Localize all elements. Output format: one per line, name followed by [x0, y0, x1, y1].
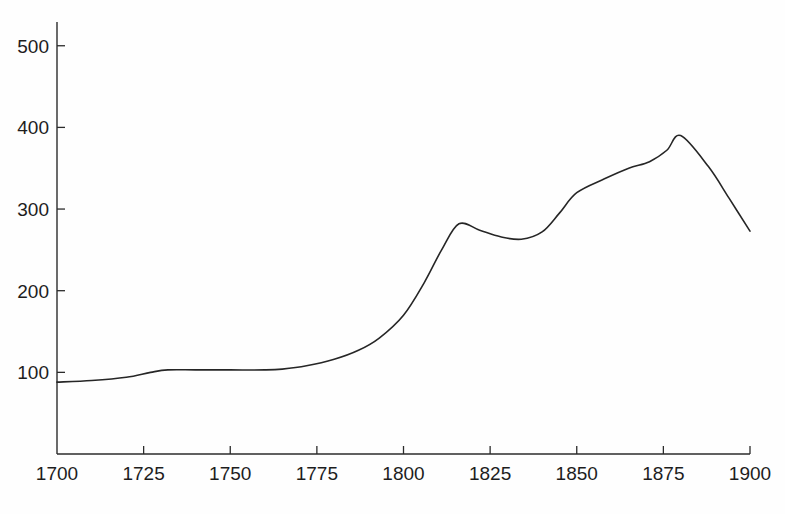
x-tick-label: 1875: [642, 463, 684, 484]
axis-ticks: [57, 46, 750, 454]
line-chart: 1002003004005001700172517501775180018251…: [0, 0, 785, 514]
x-tick-label: 1775: [296, 463, 338, 484]
x-tick-label: 1825: [469, 463, 511, 484]
y-tick-label: 400: [17, 117, 49, 138]
x-tick-label: 1700: [36, 463, 78, 484]
y-tick-label: 200: [17, 281, 49, 302]
y-tick-label: 300: [17, 199, 49, 220]
x-tick-label: 1750: [209, 463, 251, 484]
y-tick-label: 500: [17, 36, 49, 57]
series-line: [57, 135, 750, 382]
axis-tick-labels: 1002003004005001700172517501775180018251…: [17, 36, 771, 484]
axes: [57, 22, 750, 454]
x-tick-label: 1800: [382, 463, 424, 484]
chart-figure: 1002003004005001700172517501775180018251…: [0, 0, 785, 514]
x-tick-label: 1900: [729, 463, 771, 484]
y-tick-label: 100: [17, 362, 49, 383]
x-tick-label: 1725: [122, 463, 164, 484]
x-tick-label: 1850: [556, 463, 598, 484]
data-series: [57, 135, 750, 382]
